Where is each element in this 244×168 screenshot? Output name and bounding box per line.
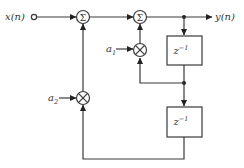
multiplier-mul2 [77, 92, 90, 105]
iir-filter-diagram: x(n) Σ Σ y(n) z−1 a1 [0, 0, 244, 168]
adder-sum2: Σ [134, 11, 147, 24]
svg-text:Σ: Σ [137, 13, 143, 23]
coefficient-a1-label: a1 [106, 43, 116, 57]
multiplier-mul1 [134, 44, 147, 57]
delay-block-1: z−1 [167, 36, 202, 65]
input-terminal [31, 14, 36, 19]
output-label: y(n) [214, 11, 235, 22]
input-label: x(n) [5, 11, 25, 22]
coefficient-a2-label: a2 [48, 92, 58, 106]
svg-text:Σ: Σ [80, 13, 86, 23]
adder-sum1: Σ [77, 11, 90, 24]
delay-block-2: z−1 [167, 107, 202, 137]
